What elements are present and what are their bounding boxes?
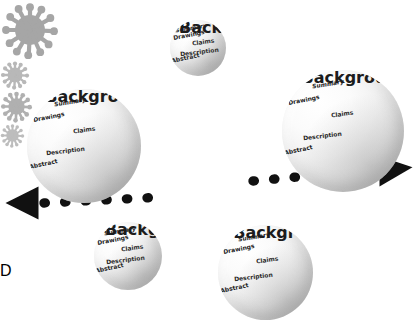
virus-icon-bottom-left (0, 123, 25, 148)
virus-icon-top-left (0, 0, 60, 60)
word-abstract: Abstract (95, 262, 124, 274)
word-claims: Claims (192, 37, 215, 46)
word-claims: Claims (330, 109, 353, 118)
sphere-word-cloud: Summary Drawings Claims Description Abst… (170, 20, 226, 76)
word-claims: Claims (256, 255, 279, 264)
word-background: Background (179, 20, 226, 36)
diagram-canvas: Summary Drawings Claims Description Abst… (0, 0, 418, 335)
sphere-right-primary: Summary Drawings Claims Description Abst… (282, 70, 404, 192)
sphere-word-cloud: Summary Drawings Claims Description Abst… (27, 89, 141, 203)
virus-icon-top-right (0, 60, 30, 90)
sphere-word-cloud: Summary Drawings Claims Description Abst… (218, 225, 313, 320)
word-abstract: Abstract (171, 52, 200, 64)
word-drawings: Drawings (288, 94, 320, 106)
sphere-word-cloud: Summary Drawings Claims Description Abst… (94, 222, 162, 290)
word-claims: Claims (121, 243, 144, 252)
word-drawings: Drawings (222, 243, 254, 255)
word-background: Background (45, 89, 141, 105)
word-abstract: Abstract (29, 158, 58, 170)
word-background: Background (302, 70, 404, 86)
word-drawings: Drawings (32, 111, 64, 123)
word-abstract: Abstract (284, 144, 313, 156)
distance-label: D (0, 262, 418, 280)
word-background: Background (105, 222, 162, 238)
sphere-word-cloud: Summary Drawings Claims Description Abst… (282, 70, 404, 192)
sphere-top-small: Summary Drawings Claims Description Abst… (170, 20, 226, 76)
word-description: Description (303, 131, 342, 142)
sphere-bottom-right: Summary Drawings Claims Description Abst… (218, 225, 313, 320)
word-claims: Claims (72, 126, 95, 135)
word-background: Background (233, 225, 313, 241)
word-abstract: Abstract (220, 282, 249, 294)
sphere-left-primary: Summary Drawings Claims Description Abst… (27, 89, 141, 203)
word-description: Description (46, 146, 85, 157)
sphere-bottom-left: Summary Drawings Claims Description Abst… (94, 222, 162, 290)
word-description: Description (234, 272, 273, 283)
